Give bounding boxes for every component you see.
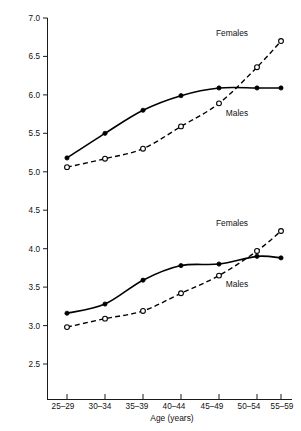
x-tick-label: 40–44 [163,402,186,411]
upper-females-point [255,65,260,70]
lower-males-point [255,254,259,258]
lower-males-label: Males [226,279,248,289]
line-chart-canvas: 7.0 6.5 6.0 5.5 5.0 4.5 4.0 3.5 3.0 2.5 … [0,0,301,431]
x-tick-label: 35–39 [126,402,149,411]
y-axis-ticks [43,18,48,364]
y-tick-label: 7.0 [29,14,41,23]
x-tick-label: 25–29 [52,402,75,411]
x-axis-ticks [67,394,281,400]
lower-females-point [179,291,184,296]
y-tick-label: 5.5 [29,129,41,138]
x-axis-tick-labels: 25–29 30–34 35–39 40–44 45–49 50–54 55–5… [52,402,294,411]
upper-females-point [65,165,70,170]
y-tick-label: 6.0 [29,91,41,100]
y-tick-label: 3.5 [29,283,41,292]
lower-females-point [65,325,70,330]
lower-females-point [217,273,222,278]
upper-males-point [65,156,69,160]
upper-males-point [217,86,221,90]
lower-females-point [279,229,284,234]
x-tick-label: 55–59 [271,402,294,411]
upper-males-point [103,131,107,135]
x-tick-label: 45–49 [201,402,224,411]
upper-males-point [179,94,183,98]
upper-males-point [141,108,145,112]
lower-males-point [179,263,183,267]
y-tick-label: 2.5 [29,360,41,369]
lower-males-point [279,256,283,260]
upper-females-point [179,124,184,129]
lower-males-line [67,256,281,313]
upper-females-point [141,146,146,151]
lower-males-point [217,262,221,266]
upper-females-point [217,101,222,106]
upper-females-point [103,156,108,161]
series-layer [65,39,284,330]
lower-females-line [67,231,281,327]
upper-males-point [255,86,259,90]
lower-females-point [141,309,146,314]
upper-females-line [67,41,281,167]
chart-figure: 7.0 6.5 6.0 5.5 5.0 4.5 4.0 3.5 3.0 2.5 … [0,0,301,431]
upper-females-label: Females [216,28,248,38]
y-tick-label: 4.5 [29,206,41,215]
y-tick-label: 3.0 [29,322,41,331]
x-tick-label: 30–34 [89,402,112,411]
y-tick-label: 6.5 [29,52,41,61]
lower-females-point [103,316,108,321]
upper-males-line [67,87,281,158]
lower-males-point [141,278,145,282]
lower-females-point [255,249,260,254]
lower-males-point [103,302,107,306]
upper-females-point [279,39,284,44]
x-axis-title: Age (years) [150,413,193,423]
lower-males-point [65,311,69,315]
y-axis-tick-labels: 7.0 6.5 6.0 5.5 5.0 4.5 4.0 3.5 3.0 2.5 [29,14,41,369]
lower-females-label: Females [216,218,248,228]
y-tick-label: 5.0 [29,168,41,177]
upper-males-point [279,86,283,90]
upper-males-label: Males [226,108,248,118]
x-tick-label: 50–54 [238,402,261,411]
y-tick-label: 4.0 [29,245,41,254]
